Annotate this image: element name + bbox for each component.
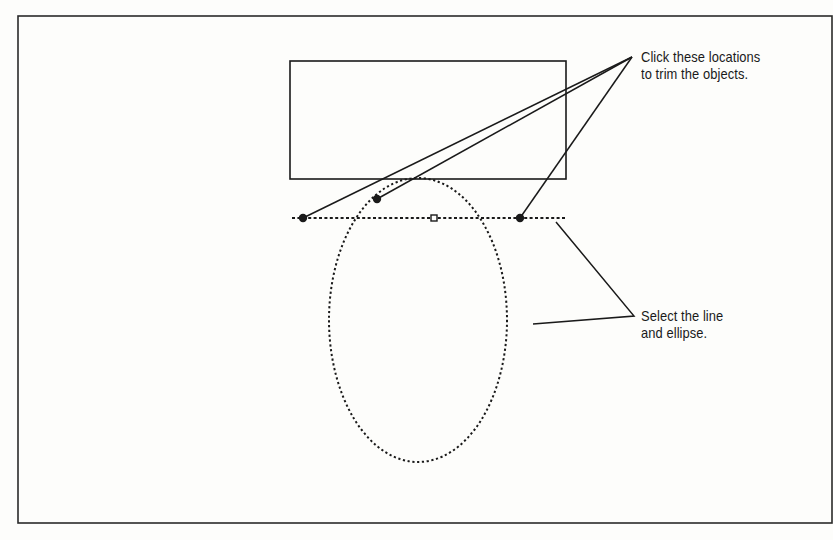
rectangle-object[interactable] <box>290 61 566 179</box>
trim-point-icon[interactable] <box>516 214 524 222</box>
trim-point-icon[interactable] <box>299 214 307 222</box>
trim-point-icon[interactable] <box>373 195 381 203</box>
callout-trim-line2: to trim the objects. <box>641 65 760 82</box>
line-midpoint-grip-icon[interactable] <box>431 215 437 221</box>
callout-select-line1: Select the line <box>641 307 723 324</box>
figure-frame <box>18 16 832 523</box>
ellipse-object-selected[interactable] <box>329 178 507 462</box>
leader-line-select <box>533 222 634 324</box>
callout-trim-instruction: Click these locations to trim the object… <box>641 48 760 82</box>
leader-line-trim-1 <box>303 57 632 218</box>
leader-line-trim-2 <box>377 57 632 199</box>
callout-trim-line1: Click these locations <box>641 48 760 65</box>
callout-select-instruction: Select the line and ellipse. <box>641 307 723 341</box>
leader-line-trim-3 <box>520 57 632 218</box>
callout-select-line2: and ellipse. <box>641 324 723 341</box>
